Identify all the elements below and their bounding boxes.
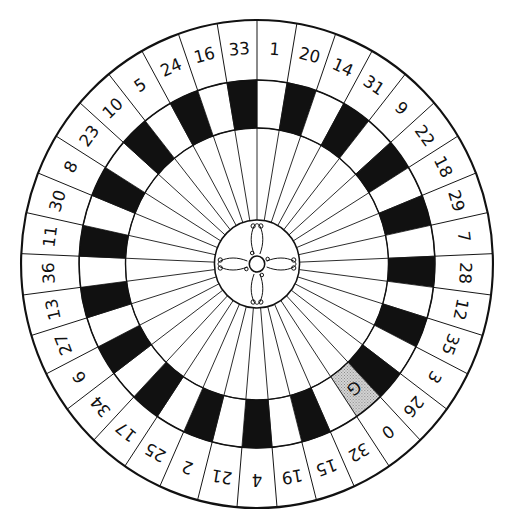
- pocket-number-19: 19: [280, 465, 304, 489]
- pocket-color-4: [242, 400, 272, 448]
- pocket-number-4: 4: [252, 470, 262, 490]
- roulette-wheel: G 12014319221829728123532603215194212251…: [0, 0, 512, 526]
- pocket-number-36: 36: [38, 262, 59, 284]
- pocket-number-1: 1: [269, 38, 281, 59]
- pocket-number-11: 11: [39, 225, 61, 249]
- pocket-number-21: 21: [210, 465, 234, 489]
- pocket-number-33: 33: [228, 38, 251, 60]
- hub: [214, 220, 299, 308]
- pocket-number-28: 28: [455, 262, 476, 284]
- wheel-body: G 12014319221829728123532603215194212251…: [21, 20, 493, 508]
- hub-center: [249, 256, 264, 272]
